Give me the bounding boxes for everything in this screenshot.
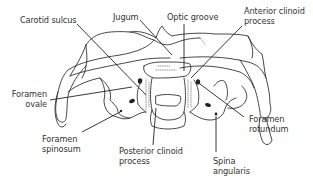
label-text-line-1: Spina [213,156,250,166]
label-text-line-2: angularis [213,166,250,176]
left-foramen-ovale-dot [128,98,135,104]
foramen-spinosum-dot [120,110,122,112]
label-foramen-rotundum: Foramen rotundum [249,114,288,134]
label-text-line-1: Foramen [42,134,81,144]
label-text-line-2: rotundum [249,124,288,134]
label-text-line-2: process [244,16,305,26]
label-posterior-clinoid-process: Posterior clinoid process [119,146,183,166]
leader-foramen-spinosum [82,112,120,132]
label-foramen-spinosum: Foramen spinosum [42,134,81,154]
left-greater-wing [56,32,154,123]
label-jugum: Jugum [113,12,138,22]
sphenoid-diagram: Carotid sulcus Jugum Optic groove Anteri… [0,0,313,186]
jugum-planum [130,26,253,58]
label-text: Jugum [113,12,138,22]
leader-foramen-ovale [50,87,132,100]
leader-jugum [140,20,172,55]
label-text-line-1: Posterior clinoid [119,146,183,156]
label-text-line-2: process [119,156,183,166]
right-foramen-ovale-dot [205,102,212,107]
left-upper-foramen-dot [138,78,142,84]
label-text: Optic groove [167,12,218,22]
label-text-line-2: ovale [3,99,47,109]
label-text-line-1: Foramen [3,89,47,99]
label-optic-groove: Optic groove [167,12,218,22]
label-anterior-clinoid-process: Anterior clinoid process [244,6,305,26]
label-text-line-1: Anterior clinoid [244,6,305,16]
label-foramen-ovale: Foramen ovale [3,89,47,109]
label-text-line-2: spinosum [42,144,81,154]
spina-angularis-dot [215,113,218,116]
label-text: Carotid sulcus [20,15,77,25]
label-text-line-1: Foramen [249,114,288,124]
leader-foramen-rotundum [200,84,244,117]
label-spina-angularis: Spina angularis [213,156,250,176]
foramen-rotundum-dot [196,79,200,85]
label-carotid-sulcus: Carotid sulcus [20,15,77,25]
leader-carotid-sulcus [77,24,146,95]
